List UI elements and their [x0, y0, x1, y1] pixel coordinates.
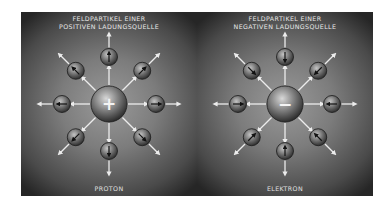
field-arrow-inner — [258, 117, 271, 130]
field-particle — [310, 129, 327, 146]
proton-label: PROTON — [21, 185, 197, 192]
title-line-1: FELDPARTIKEL EINER — [21, 15, 197, 23]
field-particle — [243, 62, 260, 79]
negative-panel-title: FELDPARTIKEL EINER NEGATIVEN LADUNGSQUEL… — [197, 15, 373, 31]
field-particle — [243, 129, 260, 146]
plus-symbol: + — [102, 94, 116, 114]
field-particle — [310, 62, 327, 79]
field-particle — [324, 96, 341, 113]
positive-panel-title: FELDPARTIKEL EINER POSITIVEN LADUNGSQUEL… — [21, 15, 197, 31]
field-arrow-outer — [60, 55, 70, 65]
field-arrow-outer — [236, 55, 246, 65]
field-arrow-outer — [60, 144, 70, 154]
field-particle — [277, 49, 294, 66]
field-arrow-inner — [122, 117, 135, 130]
field-arrow-inner — [298, 77, 311, 90]
field-particle — [134, 129, 151, 146]
positive-field-diagram: + — [21, 12, 197, 196]
field-arrow-inner — [82, 117, 95, 130]
field-arrow-inner — [258, 77, 271, 90]
field-arrow-inner — [298, 117, 311, 130]
field-particle — [134, 62, 151, 79]
field-particle — [67, 62, 84, 79]
field-particle — [230, 96, 247, 113]
field-arrow-outer — [149, 144, 159, 154]
field-arrow-inner — [122, 77, 135, 90]
field-particle — [54, 96, 71, 113]
field-arrow-outer — [325, 144, 335, 154]
field-arrow-outer — [325, 55, 335, 65]
title-line-1: FELDPARTIKEL EINER — [197, 15, 373, 23]
field-particle — [101, 49, 118, 66]
field-arrow-inner — [82, 77, 95, 90]
positive-charge-panel: + FELDPARTIKEL EINER POSITIVEN LADUNGSQU… — [21, 12, 197, 196]
field-arrow-outer — [149, 55, 159, 65]
title-line-2: POSITIVEN LADUNGSQUELLE — [21, 23, 197, 31]
negative-charge-panel: − FELDPARTIKEL EINER NEGATIVEN LADUNGSQU… — [197, 12, 373, 196]
field-particle — [101, 143, 118, 160]
field-arrow-outer — [236, 144, 246, 154]
negative-field-diagram: − — [197, 12, 373, 196]
field-particle — [277, 143, 294, 160]
minus-symbol: − — [278, 94, 292, 114]
title-line-2: NEGATIVEN LADUNGSQUELLE — [197, 23, 373, 31]
field-particle — [67, 129, 84, 146]
field-particle — [148, 96, 165, 113]
electron-label: ELEKTRON — [197, 185, 373, 192]
